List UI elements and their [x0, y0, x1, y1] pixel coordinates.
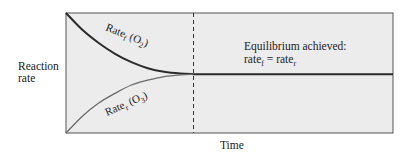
- chart: Ratef (O2) Rater (O3) Equilibrium achiev…: [0, 0, 409, 156]
- annotation-equilibrium-line1: Equilibrium achieved:: [244, 40, 347, 53]
- y-axis-label-line1: Reaction: [18, 60, 59, 72]
- x-axis-label: Time: [220, 139, 244, 151]
- y-axis-label-line2: rate: [18, 72, 35, 84]
